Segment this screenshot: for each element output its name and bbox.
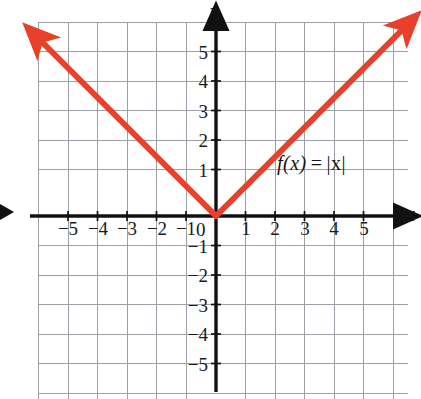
x-tick-label-5: 5: [356, 219, 372, 238]
x-tick-label-2: 2: [267, 219, 283, 238]
x-tick-label-3: 3: [297, 219, 313, 238]
x-axis-label: x: [406, 203, 415, 226]
y-tick-label-3: 3: [184, 102, 208, 121]
curve-absolute-value: [40, 28, 404, 216]
y-tick-label--3: −3: [180, 296, 208, 315]
y-tick-label--4: −4: [180, 325, 208, 344]
x-tick-label--2: −2: [145, 219, 169, 238]
function-expression: |x|: [327, 152, 347, 174]
x-tick-label-1: 1: [238, 219, 254, 238]
function-equation-annotation: f(x)=|x|: [277, 152, 346, 175]
equals-sign: =: [307, 152, 327, 174]
y-tick-label-4: 4: [184, 72, 208, 91]
graph-figure: y x 0 −5 −4 −3 −2 −1 1 2 3 4 5 5 4 3 2 1…: [0, 0, 421, 399]
x-tick-label--3: −3: [115, 219, 139, 238]
coordinate-plane-svg: [0, 0, 421, 399]
y-tick-label-1: 1: [184, 161, 208, 180]
margin-marker-icon: [0, 204, 14, 220]
x-tick-label--5: −5: [56, 219, 80, 238]
function-notation: f(x): [277, 152, 307, 174]
y-tick-label-5: 5: [184, 43, 208, 62]
y-axis-label: y: [210, 0, 219, 23]
y-tick-label-2: 2: [184, 131, 208, 150]
y-tick-label--2: −2: [180, 266, 208, 285]
curve-left-branch: [40, 40, 216, 216]
y-tick-label--5: −5: [180, 355, 208, 374]
y-tick-label--1: −1: [180, 237, 208, 256]
curve-right-branch: [216, 28, 404, 216]
x-tick-label-4: 4: [326, 219, 342, 238]
x-tick-label--4: −4: [86, 219, 110, 238]
